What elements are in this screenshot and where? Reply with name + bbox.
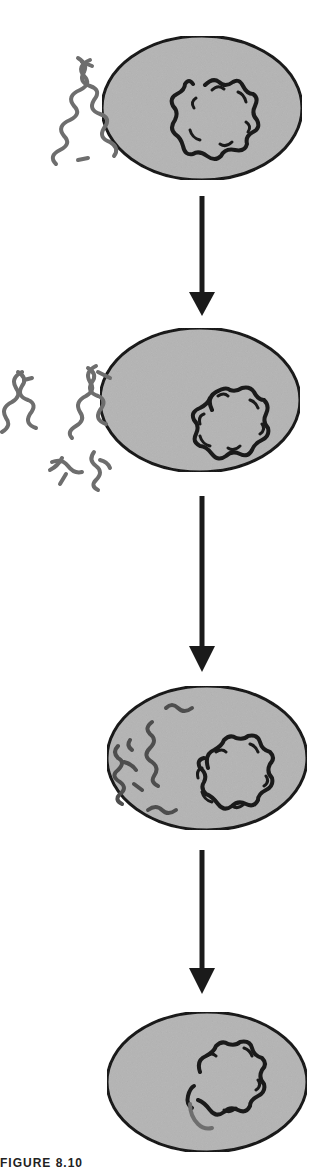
stage-3 [107,686,307,830]
arrow-3-to-4 [189,850,215,994]
stage-1 [53,36,302,180]
cell-4 [107,1012,307,1152]
stage-4 [107,1012,307,1152]
arrow-2-to-3 [189,496,215,672]
figure-caption: FIGURE 8.10 [0,1156,83,1170]
stage-2 [2,328,300,490]
cell-1 [102,36,302,180]
cell-2 [100,328,300,472]
donor-dna-2 [2,366,110,490]
arrow-1-to-2 [189,196,215,316]
